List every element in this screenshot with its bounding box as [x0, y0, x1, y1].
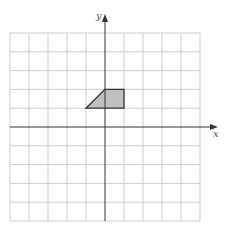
y-axis-label: y — [95, 10, 102, 21]
x-axis-label: x — [213, 128, 219, 139]
x-axis — [10, 124, 218, 130]
y-axis-arrow-icon — [102, 14, 108, 22]
coordinate-plane: x y — [0, 0, 231, 235]
y-axis — [102, 14, 108, 221]
